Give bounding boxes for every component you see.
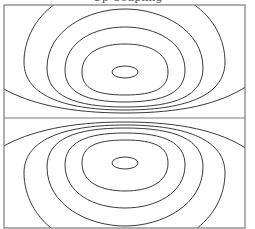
- contour-plot: [0, 0, 255, 229]
- plot-frame: [4, 5, 245, 228]
- upper-contours: [2, 4, 247, 113]
- lower-contours: [2, 122, 247, 229]
